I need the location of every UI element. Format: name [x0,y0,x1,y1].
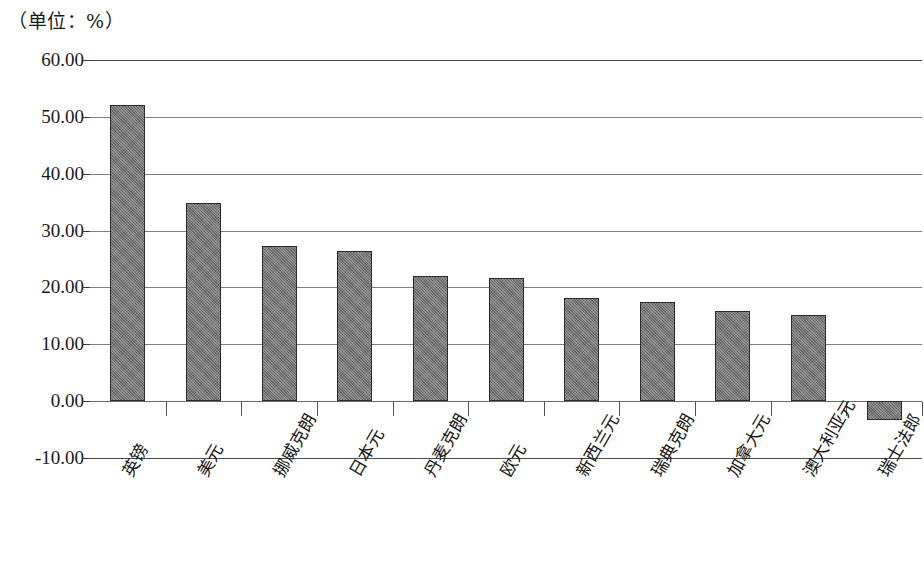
gridline [90,401,922,402]
bar [186,203,221,401]
x-axis-tick-mark [393,402,394,416]
x-axis-tick-mark [846,402,847,416]
bar [413,276,448,401]
bar [262,246,297,401]
y-axis-tick-mark [82,231,90,232]
bar [867,401,902,420]
y-axis-tick-mark [82,458,90,459]
y-axis-tick-mark [82,401,90,402]
y-axis-tick-label: 0.00 [6,391,84,410]
x-axis-tick-mark [317,402,318,416]
bar [564,298,599,401]
y-axis-tick-label: 10.00 [6,334,84,353]
y-axis-tick-mark [82,117,90,118]
y-axis-tick-label: -10.00 [6,448,84,467]
x-axis-tick-mark [922,402,923,416]
gridline [90,174,922,175]
x-axis-tick-mark [619,402,620,416]
y-axis-tick-mark [82,344,90,345]
y-axis-tick-label: 30.00 [6,221,84,240]
gridline [90,458,922,459]
gridline [90,117,922,118]
y-axis-tick-label: 60.00 [6,50,84,69]
y-axis-tick-mark [82,174,90,175]
gridline [90,60,922,61]
y-axis-tick-label: 40.00 [6,164,84,183]
bar-chart: （单位：%） 60.0050.0040.0030.0020.0010.000.0… [0,0,924,571]
x-axis-tick-mark [544,402,545,416]
y-axis-tick-label: 50.00 [6,107,84,126]
bar [640,302,675,402]
x-axis-tick-mark [771,402,772,416]
y-axis-tick-label: 20.00 [6,277,84,296]
x-axis-tick-mark [166,402,167,416]
bar [715,311,750,401]
bar [791,315,826,401]
bar [110,105,145,401]
bar [489,278,524,401]
plot-area [90,60,922,458]
y-axis-labels: 60.0050.0040.0030.0020.0010.000.00-10.00 [0,0,84,571]
y-axis-tick-mark [82,287,90,288]
x-axis-tick-mark [241,402,242,416]
y-axis-tick-mark [82,60,90,61]
x-axis-tick-mark [468,402,469,416]
bar [337,251,372,401]
x-axis-tick-mark [695,402,696,416]
